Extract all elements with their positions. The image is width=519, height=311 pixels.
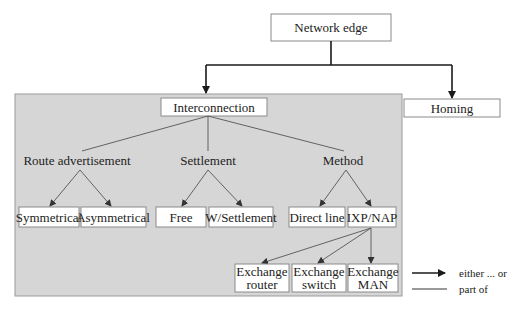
w-settlement-label: W/Settlement: [205, 210, 277, 225]
settlement-label: Settlement: [180, 153, 236, 168]
direct-line-node: Direct line: [289, 207, 345, 227]
homing-label: Homing: [431, 101, 474, 116]
exchange-man-line2: MAN: [358, 277, 389, 292]
legend: either ... or part of: [412, 267, 507, 295]
exchange-man-node: Exchange MAN: [347, 264, 398, 292]
interconnection-label: Interconnection: [173, 100, 255, 115]
exchange-router-line2: router: [246, 277, 278, 292]
exchange-switch-line2: switch: [302, 277, 336, 292]
free-label: Free: [169, 210, 192, 225]
free-node: Free: [156, 207, 206, 227]
asymmetrical-label: Asymmetrical: [76, 210, 150, 225]
network-edge-label: Network edge: [294, 20, 368, 35]
ixp-nap-label: IXP/NAP: [347, 210, 398, 225]
direct-line-label: Direct line: [289, 210, 344, 225]
exchange-switch-node: Exchange switch: [292, 264, 346, 292]
network-edge-diagram: Network edge Homing Interconnection Rout…: [0, 0, 519, 311]
network-edge-node: Network edge: [271, 14, 391, 41]
homing-node: Homing: [404, 99, 500, 117]
exchange-router-node: Exchange router: [235, 264, 289, 292]
method-label: Method: [323, 153, 364, 168]
legend-part-of-label: part of: [459, 283, 488, 295]
symmetrical-label: Symmetrical: [16, 210, 83, 225]
ixp-nap-node: IXP/NAP: [347, 207, 398, 227]
legend-either-or-label: either ... or: [459, 267, 507, 279]
symmetrical-node: Symmetrical: [16, 207, 83, 227]
interconnection-node: Interconnection: [161, 98, 267, 116]
asymmetrical-node: Asymmetrical: [76, 207, 150, 227]
w-settlement-node: W/Settlement: [205, 207, 277, 227]
route-advertisement-label: Route advertisement: [23, 153, 131, 168]
